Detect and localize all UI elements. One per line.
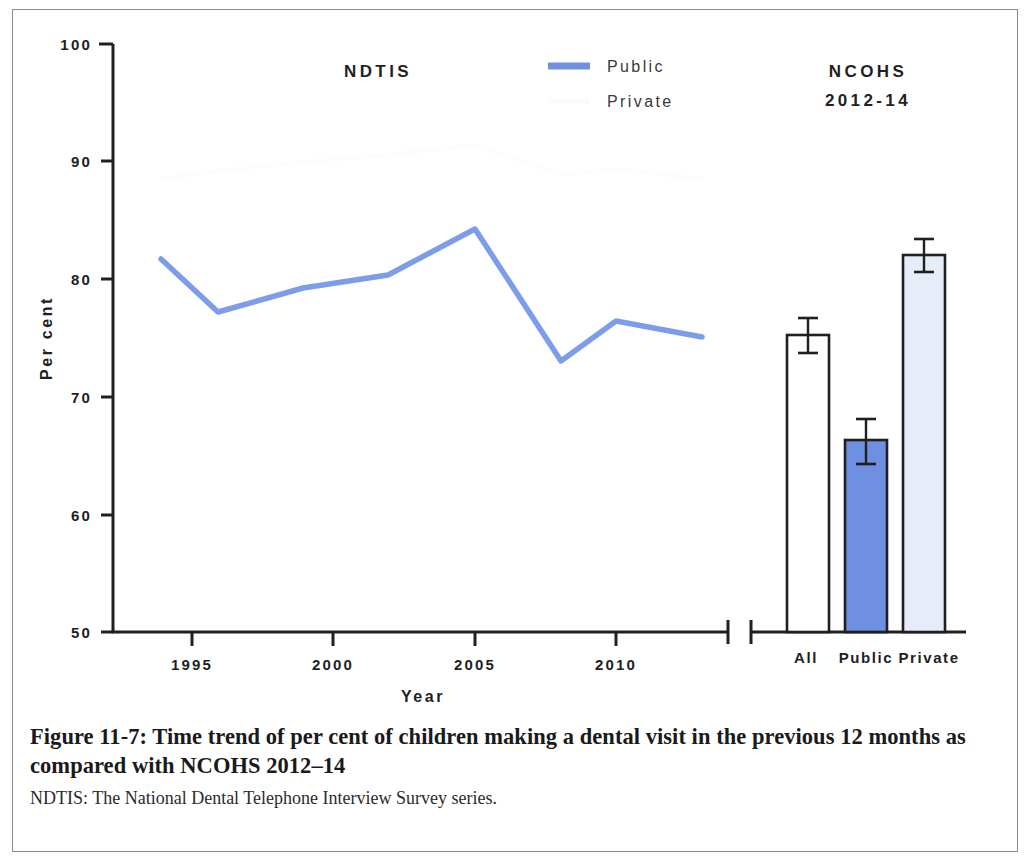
x-axis-ticks	[192, 632, 616, 646]
ncohs-panel-title-line1: NCOHS	[829, 62, 907, 81]
figure-page: 100 90 80 70 60 50 Per cent 1995 2000	[0, 0, 1031, 860]
bar-panel: NCOHS 2012-14	[750, 62, 966, 666]
figure-graphic: 100 90 80 70 60 50 Per cent 1995 2000	[0, 0, 1031, 716]
ndtis-panel-title: NDTIS	[344, 62, 412, 81]
x-tick-label-2010: 2010	[595, 656, 637, 673]
x-axis-title: Year	[401, 688, 445, 705]
y-tick-label-90: 90	[71, 153, 92, 170]
figure-caption-block: Figure 11-7: Time trend of per cent of c…	[30, 722, 990, 809]
bar-category-label-private: Private	[898, 649, 959, 666]
y-tick-label-70: 70	[71, 389, 92, 406]
bar-category-label-all: All	[794, 649, 818, 666]
y-axis-title: Per cent	[38, 296, 55, 380]
ncohs-panel-title-line2: 2012-14	[825, 91, 911, 110]
y-tick-label-100: 100	[60, 36, 92, 53]
figure-caption-title: Figure 11-7: Time trend of per cent of c…	[30, 722, 990, 781]
bar-public	[845, 419, 887, 632]
y-tick-label-80: 80	[71, 271, 92, 288]
bar-private-rect	[903, 255, 945, 632]
line-series-public	[161, 229, 702, 361]
bar-all-rect	[787, 335, 829, 632]
line-series-private	[161, 145, 702, 179]
x-tick-label-1995: 1995	[171, 656, 213, 673]
legend-label-private: Private	[607, 93, 674, 110]
bar-public-rect	[845, 440, 887, 632]
chart-svg: 100 90 80 70 60 50 Per cent 1995 2000	[0, 0, 1031, 716]
legend-label-public: Public	[607, 58, 665, 75]
chart-legend: Public Private	[548, 58, 674, 110]
bar-category-label-public: Public	[839, 649, 894, 666]
bar-private	[903, 239, 945, 632]
y-tick-label-50: 50	[71, 624, 92, 641]
figure-caption-note: NDTIS: The National Dental Telephone Int…	[30, 787, 990, 810]
y-axis-ticks	[99, 44, 113, 632]
y-tick-label-60: 60	[71, 507, 92, 524]
x-tick-label-2005: 2005	[454, 656, 496, 673]
bar-all	[787, 318, 829, 632]
line-panel: 100 90 80 70 60 50 Per cent 1995 2000	[38, 36, 729, 705]
x-tick-label-2000: 2000	[312, 656, 354, 673]
